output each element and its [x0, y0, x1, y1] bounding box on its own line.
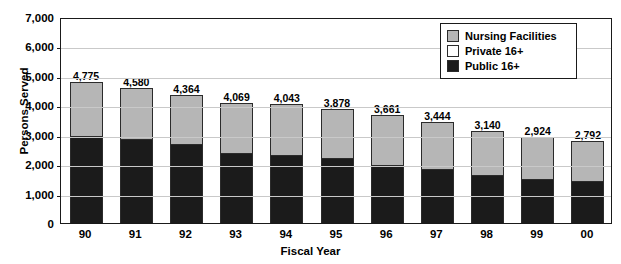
x-axis-title: Fiscal Year [0, 245, 621, 257]
y-axis-tick-label: 4,000 [8, 100, 54, 112]
y-axis-tick-label: 7,000 [8, 12, 54, 24]
legend-label: Public 16+ [465, 60, 520, 72]
legend-item[interactable]: Public 16+ [447, 58, 570, 73]
legend-label: Nursing Facilities [465, 30, 557, 42]
legend-item[interactable]: Private 16+ [447, 43, 570, 58]
y-axis-tick-label: 6,000 [8, 41, 54, 53]
x-axis-tick-label: 96 [366, 228, 406, 240]
legend-item[interactable]: Nursing Facilities [447, 28, 570, 43]
chart-legend: Nursing FacilitiesPrivate 16+Public 16+ [440, 23, 577, 79]
x-axis-tick-label: 91 [115, 228, 155, 240]
x-axis-tick-label: 92 [165, 228, 205, 240]
x-axis-tick-label: 99 [517, 228, 557, 240]
y-axis-tick-label: 0 [8, 218, 54, 230]
y-axis-tick-label: 3,000 [8, 130, 54, 142]
legend-swatch-public [447, 60, 459, 72]
legend-swatch-nursing [447, 30, 459, 42]
x-axis-tick-label: 90 [65, 228, 105, 240]
legend-swatch-private [447, 45, 459, 57]
x-axis-tick-label: 97 [416, 228, 456, 240]
x-axis-tick-label: 00 [567, 228, 607, 240]
y-axis-tick-label: 5,000 [8, 71, 54, 83]
y-axis-tick-label: 1,000 [8, 189, 54, 201]
x-axis-tick-label: 93 [216, 228, 256, 240]
legend-label: Private 16+ [465, 45, 523, 57]
x-axis-tick-label: 98 [467, 228, 507, 240]
y-axis-tick-label: 2,000 [8, 159, 54, 171]
x-axis-tick-label: 95 [316, 228, 356, 240]
y-axis-tick-labels: 01,0002,0003,0004,0005,0006,0007,000 [0, 0, 54, 264]
x-axis-tick-label: 94 [266, 228, 306, 240]
stacked-bar-chart: Persons Served 01,0002,0003,0004,0005,00… [0, 0, 621, 264]
